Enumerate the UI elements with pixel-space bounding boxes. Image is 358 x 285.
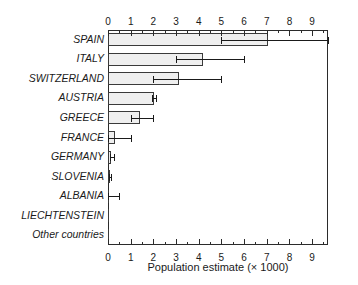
bar <box>108 92 154 105</box>
error-bar-cap <box>119 193 120 200</box>
x-tick-label: 2 <box>143 17 163 27</box>
bars-layer <box>108 30 328 245</box>
minor-tick <box>165 242 166 245</box>
category-axis-labels: SPAINITALYSWITZERLANDAUSTRIAGREECEFRANCE… <box>0 30 104 245</box>
x-tick-label: 8 <box>279 17 299 27</box>
error-bar-cap <box>153 115 154 122</box>
x-tick-label: 3 <box>166 17 186 27</box>
minor-tick <box>233 30 234 33</box>
error-bar <box>108 138 131 139</box>
error-bar-cap <box>176 56 177 63</box>
bar <box>108 209 109 222</box>
minor-tick <box>278 242 279 245</box>
minor-tick <box>255 30 256 33</box>
major-tick <box>131 239 132 245</box>
category-label: SLOVENIA <box>0 171 104 182</box>
error-bar-cap <box>152 95 153 102</box>
minor-tick <box>165 30 166 33</box>
error-bar <box>176 59 244 60</box>
error-bar-cap <box>131 115 132 122</box>
error-bar-cap <box>328 37 329 44</box>
error-bar-cap <box>108 193 109 200</box>
category-label: GERMANY <box>0 151 104 162</box>
error-bar-cap <box>221 76 222 83</box>
minor-tick <box>119 242 120 245</box>
major-tick <box>176 30 177 36</box>
error-bar-cap <box>156 95 157 102</box>
major-tick <box>199 239 200 245</box>
error-bar-cap <box>108 135 109 142</box>
x-axis-title: Population estimate (× 1000) <box>108 261 328 273</box>
minor-tick <box>142 242 143 245</box>
top-value-axis: 0123456789 <box>108 30 328 31</box>
bottom-value-axis: 0123456789 <box>108 245 328 246</box>
minor-tick <box>278 30 279 33</box>
error-bar-cap <box>110 154 111 161</box>
x-tick-label: 4 <box>189 17 209 27</box>
major-tick <box>153 239 154 245</box>
major-tick <box>289 30 290 36</box>
major-tick <box>267 239 268 245</box>
error-bar-cap <box>153 76 154 83</box>
minor-tick <box>301 242 302 245</box>
error-bar-cap <box>221 37 222 44</box>
major-tick <box>199 30 200 36</box>
x-tick-label: 6 <box>234 17 254 27</box>
category-label: SWITZERLAND <box>0 73 104 84</box>
error-bar-cap <box>114 154 115 161</box>
category-label: FRANCE <box>0 132 104 143</box>
major-tick <box>312 239 313 245</box>
minor-tick <box>210 30 211 33</box>
error-bar <box>221 40 328 41</box>
minor-tick <box>323 242 324 245</box>
minor-tick <box>119 30 120 33</box>
minor-tick <box>142 30 143 33</box>
category-label: ITALY <box>0 53 104 64</box>
x-tick-label: 0 <box>98 17 118 27</box>
x-tick-label: 5 <box>211 17 231 27</box>
major-tick <box>244 30 245 36</box>
major-tick <box>267 30 268 36</box>
minor-tick <box>210 242 211 245</box>
category-label: Other countries <box>0 229 104 240</box>
minor-tick <box>255 242 256 245</box>
x-tick-label: 7 <box>257 17 277 27</box>
major-tick <box>108 30 109 36</box>
major-tick <box>289 239 290 245</box>
major-tick <box>244 239 245 245</box>
major-tick <box>153 30 154 36</box>
error-bar <box>153 79 221 80</box>
error-bar-cap <box>109 174 110 181</box>
major-tick <box>108 239 109 245</box>
major-tick <box>312 30 313 36</box>
x-tick-label: 9 <box>302 17 322 27</box>
major-tick <box>131 30 132 36</box>
population-estimate-bar-chart: SPAINITALYSWITZERLANDAUSTRIAGREECEFRANCE… <box>0 0 358 285</box>
major-tick <box>221 239 222 245</box>
major-tick <box>221 30 222 36</box>
minor-tick <box>187 242 188 245</box>
category-label: ALBANIA <box>0 190 104 201</box>
error-bar-cap <box>131 135 132 142</box>
minor-tick <box>233 242 234 245</box>
category-label: SPAIN <box>0 34 104 45</box>
error-bar-cap <box>111 174 112 181</box>
category-label: GREECE <box>0 112 104 123</box>
error-bar-cap <box>244 56 245 63</box>
minor-tick <box>301 30 302 33</box>
minor-tick <box>323 30 324 33</box>
minor-tick <box>187 30 188 33</box>
category-label: AUSTRIA <box>0 92 104 103</box>
error-bar <box>108 196 119 197</box>
error-bar <box>131 118 154 119</box>
x-tick-label: 1 <box>121 17 141 27</box>
major-tick <box>176 239 177 245</box>
category-label: LIECHTENSTEIN <box>0 210 104 221</box>
